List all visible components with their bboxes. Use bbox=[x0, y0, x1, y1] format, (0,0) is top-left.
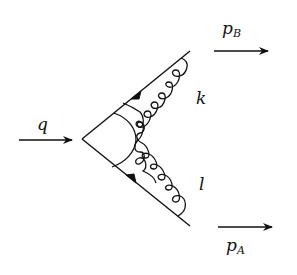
label-l: l bbox=[199, 174, 204, 194]
feynman-diagram: q pB pA k l bbox=[0, 0, 297, 275]
fermion-arrow-lower-icon bbox=[126, 174, 136, 183]
label-pA: pA bbox=[226, 235, 245, 257]
fermion-line-lower bbox=[82, 139, 190, 226]
fermion-arrow-upper-icon bbox=[131, 91, 141, 99]
inner-gluon-arcs bbox=[112, 113, 136, 167]
label-q: q bbox=[37, 114, 48, 134]
gluon-l bbox=[123, 103, 185, 216]
label-pB: pB bbox=[222, 18, 241, 40]
label-k: k bbox=[196, 88, 206, 108]
